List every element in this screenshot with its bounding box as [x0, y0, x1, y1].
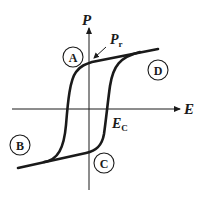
region-c-badge: C: [94, 153, 114, 173]
remanent-polarization-label: Pr: [94, 32, 123, 58]
svg-text:A: A: [69, 51, 78, 65]
region-a-badge: A: [63, 47, 83, 67]
region-d-badge: D: [148, 60, 168, 80]
axis-label-e: E: [183, 101, 194, 117]
axis-label-p: P: [82, 12, 92, 28]
svg-text:B: B: [16, 139, 24, 153]
svg-text:Pr: Pr: [110, 32, 123, 49]
hysteresis-diagram: P E Pr EC A B C D: [0, 0, 204, 198]
region-b-badge: B: [10, 135, 30, 155]
pr-pointer-arrow: [94, 47, 106, 58]
svg-text:C: C: [100, 157, 109, 171]
coercive-field-label: EC: [111, 116, 128, 133]
svg-text:D: D: [154, 64, 163, 78]
